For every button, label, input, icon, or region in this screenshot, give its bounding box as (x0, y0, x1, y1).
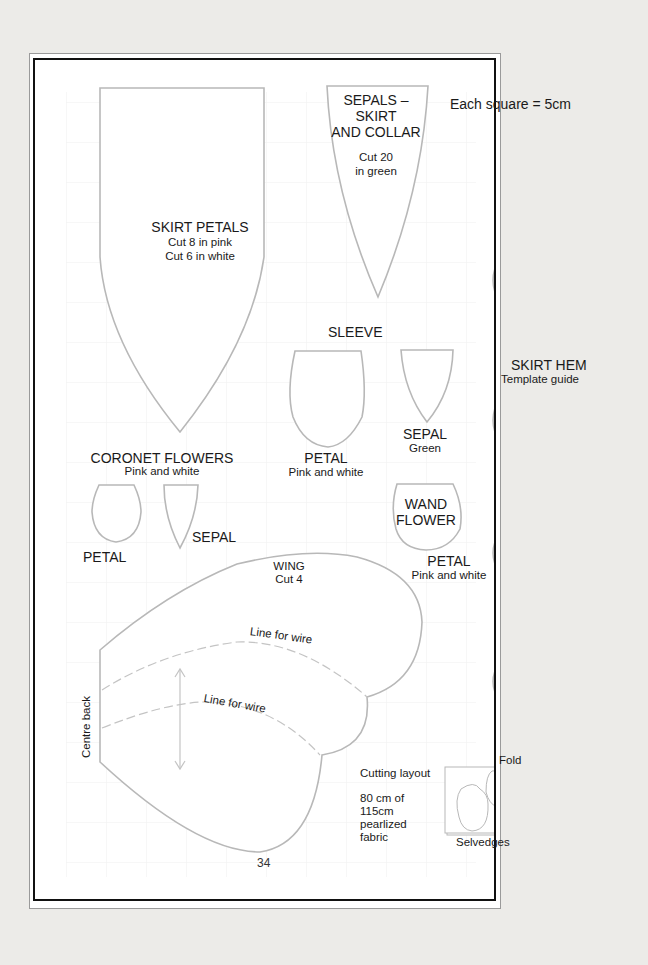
wand-flower-title-2: FLOWER (391, 512, 461, 528)
coronet-sub: Pink and white (77, 465, 247, 478)
scale-note: Each square = 5cm (450, 96, 571, 112)
sepals-colour: in green (325, 165, 427, 178)
wand-flower-title-1: WAND (391, 496, 461, 512)
cutting-layout-line-4: fabric (360, 831, 388, 844)
sepals-title-3: AND COLLAR (325, 124, 427, 140)
wing-title: WING (264, 560, 314, 573)
sleeve-petal-sub: Pink and white (271, 466, 381, 479)
sepals-title-2: SKIRT (325, 108, 427, 124)
selvedges-label: Selvedges (456, 836, 510, 849)
skirt-petals-cut-pink: Cut 8 in pink (130, 236, 270, 249)
coronet-sepal-label: SEPAL (192, 529, 236, 545)
skirt-petals-title: SKIRT PETALS (130, 219, 270, 235)
sleeve-petal-shape (290, 351, 364, 447)
sepals-title-1: SEPALS – (325, 92, 427, 108)
sleeve-sepal-sub: Green (395, 442, 455, 455)
skirt-hem-title: SKIRT HEM (511, 357, 521, 373)
skirt-hem-shape (493, 162, 494, 822)
sleeve-title: SLEEVE (328, 324, 382, 340)
cutting-layout-title: Cutting layout (360, 767, 430, 780)
sleeve-petal-title: PETAL (291, 450, 361, 466)
fold-label: Fold (499, 754, 521, 767)
coronet-petal-label: PETAL (83, 549, 126, 565)
sepals-cut: Cut 20 (325, 151, 427, 164)
cutting-layout-line-1: 80 cm of (360, 792, 404, 805)
wand-petal-sub: Pink and white (399, 569, 499, 582)
centre-back-label: Centre back (80, 696, 93, 758)
cutting-layout-piece-1 (457, 785, 488, 832)
sleeve-sepal-title: SEPAL (395, 426, 455, 442)
cutting-layout-line-2: 115cm (360, 805, 394, 818)
coronet-petal-shape (92, 485, 141, 542)
skirt-hem-sub: Template guide (501, 373, 579, 386)
pattern-page: SKIRT PETALS Cut 8 in pink Cut 6 in whit… (33, 58, 496, 901)
skirt-petals-cut-white: Cut 6 in white (130, 250, 270, 263)
cutting-layout-line-3: pearlized (360, 818, 407, 831)
page-number: 34 (257, 856, 270, 870)
wing-cut: Cut 4 (264, 573, 314, 586)
wand-petal-label: PETAL (419, 553, 479, 569)
coronet-title: CORONET FLOWERS (77, 450, 247, 466)
